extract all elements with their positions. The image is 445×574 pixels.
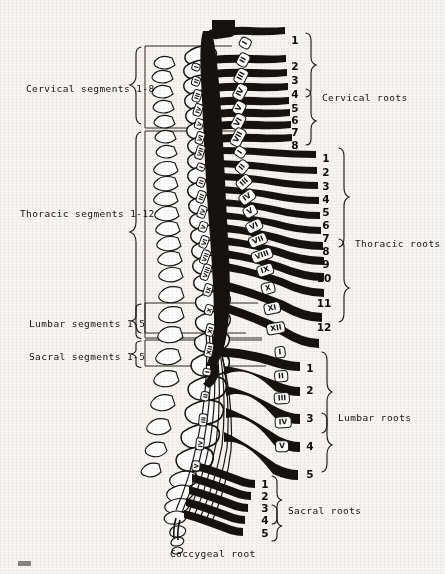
- lumbar-roots-number: 5: [303, 468, 317, 480]
- thoracic-roots-number: 2: [319, 166, 333, 178]
- sacral-roots-number: 1: [258, 478, 272, 490]
- nerve-root-roman-numeral: IV: [274, 416, 291, 428]
- thoracic-roots-number: 5: [319, 206, 333, 218]
- thoracic-roots-number: 8: [319, 245, 333, 257]
- scan-smudge: [18, 561, 31, 566]
- lumbar-roots-number: 3: [303, 412, 317, 424]
- spinal-cord-diagram: Cervical segments 1-8 Thoracic segments …: [0, 0, 445, 574]
- label-lumbar-roots: Lumbar roots: [338, 412, 411, 423]
- nerve-root-roman-numeral: I: [274, 346, 286, 359]
- label-lumbar-segments: Lumbar segments 1-5: [29, 318, 145, 329]
- thoracic-roots-number: 1: [319, 152, 333, 164]
- label-thoracic-roots: Thoracic roots: [355, 238, 441, 249]
- label-cervical-roots: Cervical roots: [322, 92, 408, 103]
- cervical-roots-number: 3: [288, 74, 302, 86]
- nerve-root-roman-numeral: III: [274, 392, 291, 404]
- vertebra-roman-numeral: IV: [195, 437, 205, 451]
- cervical-roots-number: 6: [288, 114, 302, 126]
- sacral-roots-number: 4: [258, 514, 272, 526]
- vertebra-roman-numeral: I: [202, 367, 212, 377]
- lumbar-roots-number: 1: [303, 362, 317, 374]
- label-thoracic-segments: Thoracic segments 1-12: [20, 208, 155, 219]
- thoracic-roots-number: 6: [319, 219, 333, 231]
- label-coccygeal-root: Coccygeal root: [170, 548, 256, 559]
- sacral-roots-number: 3: [258, 502, 272, 514]
- thoracic-roots-number: 10: [315, 272, 333, 284]
- label-sacral-segments: Sacral segments 1-5: [29, 351, 145, 362]
- thoracic-roots-number: 4: [319, 193, 333, 205]
- vertebra-roman-numeral: V: [191, 460, 201, 471]
- lumbar-roots-number: 2: [303, 384, 317, 396]
- vertebra-roman-numeral: II: [200, 390, 210, 402]
- lumbar-nerve-roots: [222, 348, 300, 480]
- cervical-roots-number: 1: [288, 34, 302, 46]
- label-cervical-segments: Cervical segments 1-8: [26, 83, 155, 94]
- thoracic-roots-number: 7: [319, 232, 333, 244]
- sacral-roots-number: 5: [258, 527, 272, 539]
- thoracic-roots-number: 12: [315, 321, 333, 333]
- cervical-roots-number: 4: [288, 88, 302, 100]
- cervical-roots-number: 2: [288, 60, 302, 72]
- nerve-root-roman-numeral: II: [274, 370, 288, 382]
- sacral-roots-number: 2: [258, 490, 272, 502]
- cervical-roots-number: 5: [288, 102, 302, 114]
- cervical-roots-number: 7: [288, 126, 302, 138]
- cervical-roots-number: 8: [288, 139, 302, 151]
- thoracic-roots-number: 3: [319, 180, 333, 192]
- thoracic-roots-number: 9: [319, 258, 333, 270]
- lumbar-roots-number: 4: [303, 440, 317, 452]
- spinous-processes: [141, 56, 184, 477]
- vertebra-roman-numeral: III: [198, 413, 208, 427]
- thoracic-roots-number: 11: [315, 297, 333, 309]
- label-sacral-roots: Sacral roots: [288, 505, 361, 516]
- nerve-root-roman-numeral: V: [275, 440, 289, 452]
